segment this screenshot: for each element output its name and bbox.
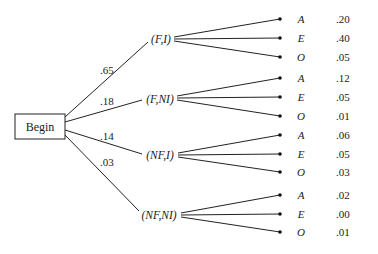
root-node: Begin (15, 114, 65, 139)
terminal-dot-icon (278, 170, 282, 174)
outcome-label: A (297, 13, 305, 25)
terminal-dot-icon (278, 114, 282, 118)
branch-label-3: (NF,NI) (141, 209, 176, 222)
outcome-value: .01 (336, 226, 350, 238)
branch-prob-0: .65 (100, 64, 114, 76)
outcome-label: O (297, 51, 305, 63)
branch-prob-2: .14 (100, 130, 114, 142)
outcome-value: .05 (336, 148, 350, 160)
root-label: Begin (26, 120, 55, 134)
edge-branch-3-outcome-0 (181, 195, 280, 213)
terminal-dot-icon (278, 230, 282, 234)
outcome-value: .00 (336, 208, 350, 220)
branch-node-1: (F,NI) A E O .12 .05 .01 (146, 72, 350, 122)
outcome-label: O (297, 226, 305, 238)
outcome-value: .06 (336, 129, 350, 141)
terminal-dot-icon (278, 212, 282, 216)
terminal-dot-icon (278, 193, 282, 197)
outcome-value: .12 (336, 72, 350, 84)
edge-branch-1-outcome-2 (177, 100, 280, 116)
edge-branch-2-outcome-1 (178, 154, 280, 155)
edge-branch-2-outcome-0 (178, 135, 280, 153)
branch-prob-3: .03 (100, 156, 114, 168)
outcome-label: E (297, 208, 305, 220)
terminal-dot-icon (278, 17, 282, 21)
outcome-label: E (297, 148, 305, 160)
outcome-label: E (297, 32, 305, 44)
outcome-label: O (297, 110, 305, 122)
edge-branch-0-outcome-0 (174, 19, 280, 37)
edge-branch-1-outcome-1 (177, 97, 280, 98)
terminal-dot-icon (278, 55, 282, 59)
edge-branch-3-outcome-2 (181, 217, 280, 232)
outcome-value: .01 (336, 110, 350, 122)
branch-node-3: (NF,NI) A E O .02 .00 .01 (141, 189, 350, 238)
edge-branch-3-outcome-1 (181, 214, 280, 215)
terminal-dot-icon (278, 133, 282, 137)
terminal-dot-icon (278, 36, 282, 40)
edge-branch-0-outcome-1 (174, 38, 280, 39)
outcome-value: .05 (336, 51, 350, 63)
branch-node-2: (NF,I) A E O .06 .05 .03 (146, 129, 350, 178)
terminal-dot-icon (278, 95, 282, 99)
terminal-dot-icon (278, 152, 282, 156)
outcome-label: A (297, 72, 305, 84)
branch-prob-1: .18 (100, 95, 114, 107)
edge-branch-1-outcome-0 (177, 78, 280, 96)
outcome-value: .40 (336, 32, 350, 44)
terminal-dot-icon (278, 76, 282, 80)
edge-root-branch-3 (65, 135, 139, 211)
outcome-label: O (297, 166, 305, 178)
outcome-value: .02 (336, 189, 350, 201)
outcome-label: A (297, 129, 305, 141)
edge-branch-0-outcome-2 (174, 41, 280, 57)
probability-tree-diagram: Begin .65 .18 .14 .03 (F,I) A E O .20 .4… (0, 0, 378, 254)
outcome-label: E (297, 91, 305, 103)
branch-label-2: (NF,I) (146, 149, 174, 162)
outcome-label: A (297, 189, 305, 201)
branch-label-1: (F,NI) (146, 93, 174, 106)
outcome-value: .03 (336, 166, 350, 178)
branch-label-0: (F,I) (151, 33, 171, 46)
edge-branch-2-outcome-2 (178, 157, 280, 172)
branch-node-0: (F,I) A E O .20 .40 .05 (151, 13, 350, 63)
outcome-value: .05 (336, 91, 350, 103)
outcome-value: .20 (336, 13, 350, 25)
